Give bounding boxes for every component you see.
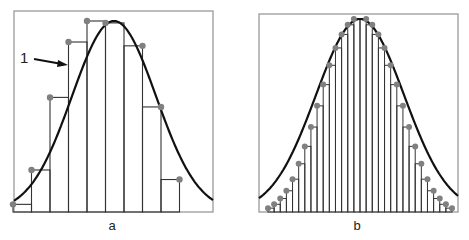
histogram-bar	[415, 164, 421, 212]
histogram-bar	[143, 107, 162, 212]
histogram-bar	[421, 179, 427, 212]
curve-point	[308, 124, 314, 130]
curve-point	[443, 201, 449, 207]
histogram-bar	[342, 34, 348, 212]
curve-point	[449, 205, 455, 211]
curve-point	[65, 39, 71, 45]
curve-point	[102, 20, 108, 26]
histogram-bar	[293, 179, 299, 212]
histogram-bar	[323, 85, 329, 212]
curve-point	[296, 161, 302, 167]
curve-point	[382, 45, 388, 51]
curve-point	[302, 143, 308, 149]
curve-point	[394, 82, 400, 88]
curve-point	[271, 201, 277, 207]
panel-a-label: a	[108, 218, 115, 233]
bell-curve	[259, 19, 458, 198]
histogram-bar	[317, 106, 323, 212]
histogram-bar	[385, 65, 391, 212]
curve-point	[363, 16, 369, 22]
histogram-bar	[106, 23, 125, 212]
histogram-bar	[391, 85, 397, 212]
curve-point	[424, 176, 430, 182]
histogram-bar	[403, 127, 409, 212]
curve-point	[412, 143, 418, 149]
curve-point	[400, 103, 406, 109]
curve-point	[375, 31, 381, 37]
curve-point	[139, 43, 145, 49]
curve-point	[283, 188, 289, 194]
histogram-figure	[0, 0, 469, 240]
callout-label: 1	[20, 49, 28, 66]
histogram-bar	[305, 146, 311, 212]
histogram-bar	[286, 191, 292, 212]
curve-point	[326, 62, 332, 68]
curve-point	[418, 161, 424, 167]
panel-b-label: b	[353, 218, 360, 233]
curve-point	[277, 195, 283, 201]
histogram-bar	[335, 48, 341, 212]
callout-arrow-icon	[34, 59, 68, 67]
curve-point	[351, 16, 357, 22]
curve-point	[176, 176, 182, 182]
curve-point	[47, 94, 53, 100]
curve-point	[10, 201, 16, 207]
histogram-bar	[397, 106, 403, 212]
curve-point	[314, 103, 320, 109]
bell-curve	[14, 21, 213, 201]
curve-point	[339, 31, 345, 37]
panel-frame	[14, 11, 213, 212]
curve-point	[265, 205, 271, 211]
histogram-bar	[329, 65, 335, 212]
histogram-bar	[378, 48, 384, 212]
panel-frame	[259, 14, 458, 212]
curve-point	[406, 124, 412, 130]
panel-a-histogram	[10, 11, 213, 212]
curve-point	[84, 18, 90, 24]
curve-point	[431, 188, 437, 194]
histogram-bar	[299, 164, 305, 212]
histogram-bar	[69, 42, 88, 212]
histogram-bar	[354, 19, 360, 212]
curve-point	[290, 176, 296, 182]
panel-b-histogram	[259, 14, 458, 212]
histogram-bar	[366, 25, 372, 212]
histogram-bar	[360, 19, 366, 212]
histogram-bar	[311, 127, 317, 212]
histogram-bar	[124, 46, 143, 212]
curve-point	[28, 167, 34, 173]
curve-point	[388, 62, 394, 68]
curve-point	[332, 45, 338, 51]
histogram-bar	[161, 180, 180, 212]
histogram-bar	[348, 25, 354, 212]
curve-point	[320, 82, 326, 88]
curve-point	[158, 104, 164, 110]
histogram-bar	[32, 170, 51, 212]
curve-point	[369, 22, 375, 28]
histogram-bar	[372, 34, 378, 212]
histogram-bar	[427, 191, 433, 212]
curve-point	[437, 195, 443, 201]
curve-point	[345, 22, 351, 28]
histogram-bar	[409, 146, 415, 212]
